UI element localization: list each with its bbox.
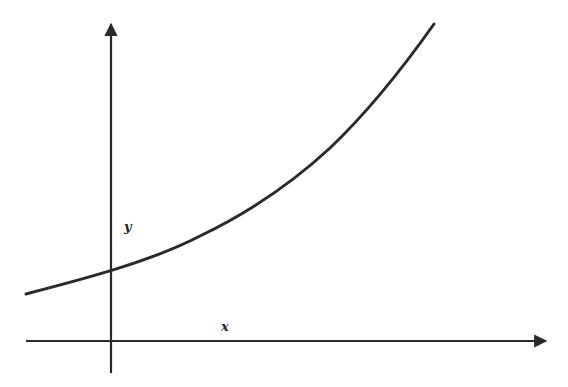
diagram-canvas: y x xyxy=(0,0,568,387)
exponential-curve xyxy=(26,24,434,294)
x-axis-label: x xyxy=(220,319,229,334)
y-axis-label: y xyxy=(123,219,133,234)
